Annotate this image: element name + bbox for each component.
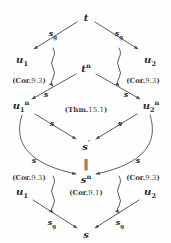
- node-s: s: [83, 230, 89, 240]
- edge-label-bottom-left-sg: sg: [48, 218, 56, 226]
- node-u2: u2: [144, 55, 156, 65]
- edge-label-lower-right-s: s: [118, 119, 123, 127]
- edge-arc-u1n-to-sn: [20, 115, 76, 174]
- node-u1-n: u1n: [13, 101, 30, 111]
- squiggle-left-lower: [52, 176, 55, 213]
- node-u2-lower: u2: [144, 187, 156, 197]
- ref-cor-93-bottom-right: (Cor.9.3): [126, 174, 160, 182]
- edge-label-top-left-sg: sg: [49, 29, 57, 37]
- edge-label-mid-right-s: s: [124, 90, 129, 98]
- squiggle-right-lower: [118, 176, 121, 213]
- node-u1-lower: u1: [16, 187, 28, 197]
- squiggle-u1-to-u1n: [52, 48, 55, 86]
- ref-cor-93-top-left: (Cor.9.3): [12, 77, 46, 85]
- edge-u1n-to-sprime: [35, 114, 76, 139]
- node-u2-n: u2n: [143, 101, 160, 111]
- edge-label-bottom-right-sg: sg: [116, 218, 124, 226]
- node-t-n: tn: [81, 64, 90, 74]
- node-s-prime: s′: [82, 138, 90, 151]
- node-t: t: [84, 13, 89, 23]
- ref-thm-151: (Thm.15.1): [65, 106, 107, 114]
- edge-label-top-right-sg: sg: [115, 29, 123, 37]
- edge-u2n-to-sprime: [96, 114, 137, 139]
- ref-cor-91: (Cor.9.1): [69, 189, 103, 197]
- edge-label-arc-right-s: s: [136, 156, 141, 164]
- equality-mark: ‖: [83, 158, 89, 169]
- ref-cor-93-top-right: (Cor.9.3): [126, 77, 160, 85]
- node-u1: u1: [16, 55, 28, 65]
- ref-cor-93-bottom-left: (Cor.9.3): [12, 174, 46, 182]
- edge-label-mid-left-s: s: [44, 90, 49, 98]
- diagram-edges: [0, 0, 171, 243]
- node-s-n: sn: [81, 175, 91, 185]
- edge-label-arc-left-s: s: [32, 156, 37, 164]
- edge-label-lower-left-s: s: [50, 119, 55, 127]
- squiggle-u2-to-u2n: [118, 48, 121, 86]
- commutative-diagram: t u1 u2 tn u1n u2n s′ sn u1 u2 s sg sg s…: [0, 0, 171, 243]
- edge-arc-u2n-to-sn: [96, 115, 152, 174]
